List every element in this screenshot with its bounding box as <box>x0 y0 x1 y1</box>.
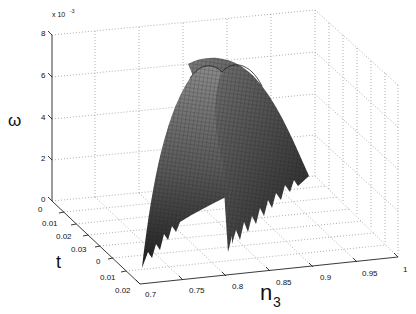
z-tick-labels: 8 6 4 2 0 <box>41 29 46 204</box>
svg-text:0.03: 0.03 <box>71 245 87 254</box>
svg-text:3: 3 <box>273 294 281 310</box>
svg-text:2: 2 <box>41 154 46 163</box>
svg-text:0.02: 0.02 <box>115 286 131 295</box>
svg-text:0.01: 0.01 <box>42 219 58 228</box>
svg-text:0.95: 0.95 <box>362 269 378 278</box>
svg-text:-3: -3 <box>70 8 75 14</box>
svg-text:0.8: 0.8 <box>232 282 244 291</box>
plot-canvas: 8 6 4 2 0 x 10 -3 0 0.01 0.02 0.03 0 0.0… <box>0 0 416 314</box>
svg-text:0: 0 <box>38 205 43 214</box>
svg-text:4: 4 <box>41 113 46 122</box>
svg-text:0.75: 0.75 <box>189 286 205 295</box>
surface-plot-figure: 8 6 4 2 0 x 10 -3 0 0.01 0.02 0.03 0 0.0… <box>0 0 416 314</box>
z-exponent-label: x 10 -3 <box>52 8 75 18</box>
t-axis-label: t <box>56 252 61 272</box>
svg-text:0.85: 0.85 <box>276 278 292 287</box>
svg-text:x 10: x 10 <box>52 11 65 18</box>
svg-text:8: 8 <box>41 29 46 38</box>
svg-text:1: 1 <box>403 265 408 274</box>
svg-text:0.7: 0.7 <box>145 290 157 299</box>
svg-text:0: 0 <box>41 195 46 204</box>
t-tick-labels: 0 0.01 0.02 0.03 0 0.01 0.02 <box>38 205 131 295</box>
svg-text:0.9: 0.9 <box>320 273 332 282</box>
svg-text:n: n <box>260 280 272 305</box>
svg-text:6: 6 <box>41 71 46 80</box>
svg-text:0: 0 <box>96 257 101 266</box>
svg-text:0.01: 0.01 <box>100 273 116 282</box>
t-axis-line <box>52 201 140 284</box>
z-axis-label: ω <box>8 111 21 130</box>
svg-text:0.02: 0.02 <box>56 232 72 241</box>
